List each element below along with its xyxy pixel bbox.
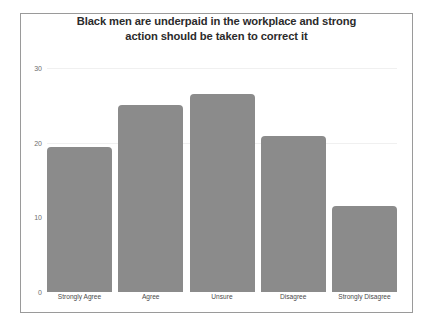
bar-disagree[interactable] [261,136,326,292]
bar-slot-disagree [261,60,326,292]
chart-title-line-1: Black men are underpaid in the workplace… [20,14,413,29]
x-tick-strongly-agree: Strongly Agree [47,293,112,300]
x-tick-disagree: Disagree [261,293,326,300]
y-tick-30: 30 [20,65,42,72]
bar-slot-strongly-disagree [332,60,397,292]
y-tick-0: 0 [20,289,42,296]
x-axis-labels: Strongly Agree Agree Unsure Disagree Str… [47,293,397,300]
bar-slot-agree [118,60,183,292]
y-axis: 30 20 10 0 [18,0,42,334]
y-tick-20: 20 [20,140,42,147]
bar-strongly-disagree[interactable] [332,206,397,292]
y-tick-10: 10 [20,214,42,221]
x-tick-strongly-disagree: Strongly Disagree [332,293,397,300]
x-tick-agree: Agree [118,293,183,300]
bar-slot-unsure [190,60,255,292]
bar-unsure[interactable] [190,94,255,292]
bar-agree[interactable] [118,105,183,292]
bar-slot-strongly-agree [47,60,112,292]
chart-title: Black men are underpaid in the workplace… [20,14,413,44]
bar-strongly-agree[interactable] [47,147,112,292]
plot-area [47,60,397,292]
chart-title-line-2: action should be taken to correct it [20,29,413,44]
x-tick-unsure: Unsure [190,293,255,300]
bar-series [47,60,397,292]
